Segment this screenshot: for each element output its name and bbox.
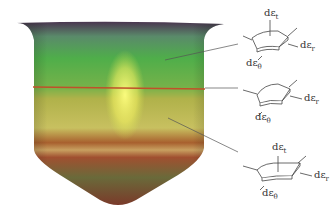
label-mid-r: dεr xyxy=(304,93,319,106)
label-bot-theta: dεθ xyxy=(262,188,278,201)
label-mid-theta: dεθ xyxy=(255,112,271,125)
label-bot-r: dεr xyxy=(314,170,329,183)
element-top xyxy=(243,20,298,60)
cup xyxy=(16,22,224,205)
element-bottom xyxy=(243,156,312,190)
element-middle xyxy=(243,80,302,116)
label-top-theta: dεθ xyxy=(246,58,262,71)
label-top-t: dεt xyxy=(264,8,278,21)
diagram-canvas xyxy=(0,0,332,217)
label-top-r: dεr xyxy=(300,40,315,53)
label-bot-t: dεt xyxy=(272,142,286,155)
